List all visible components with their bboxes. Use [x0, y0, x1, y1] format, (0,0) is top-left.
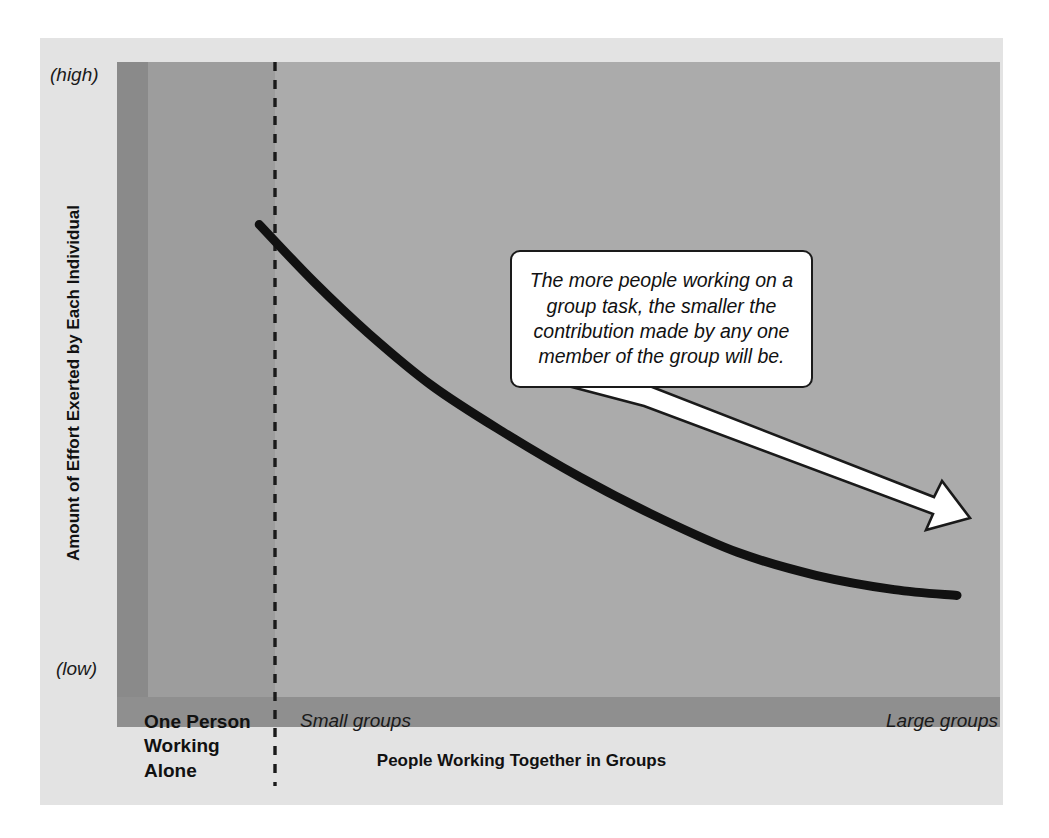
y-axis-low-label: (low) [56, 658, 97, 680]
figure-canvas: (high) (low) Amount of Effort Exerted by… [40, 38, 1003, 805]
category-one-person-line3: Alone [144, 759, 294, 783]
callout-text: The more people working on a group task,… [512, 268, 811, 369]
callout-box: The more people working on a group task,… [510, 250, 813, 388]
category-one-person-line2: Working [144, 734, 294, 758]
category-one-person-line1: One Person [144, 710, 294, 734]
category-one-person-alone: One Person Working Alone [144, 710, 294, 783]
pointer-arrow [526, 375, 970, 530]
category-small-groups: Small groups [300, 710, 411, 732]
category-large-groups: Large groups [886, 710, 998, 732]
y-axis-high-label: (high) [50, 64, 99, 86]
y-axis-title: Amount of Effort Exerted by Each Individ… [64, 183, 84, 583]
chart-vector-overlay [40, 38, 1003, 805]
